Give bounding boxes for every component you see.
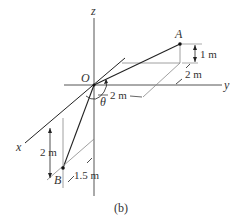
y-dim-arrow-right xyxy=(130,96,142,97)
point-origin xyxy=(93,84,96,87)
a-height-label: 1 m xyxy=(200,48,217,60)
arrow-head xyxy=(193,45,197,50)
b-height-label: 2 m xyxy=(40,146,57,158)
point-a xyxy=(178,42,182,46)
arrow-head xyxy=(193,57,197,62)
point-b xyxy=(61,166,65,170)
a-construction-diagonal xyxy=(143,63,180,97)
a-along-y-label: 2 m xyxy=(110,89,127,101)
vector-oa xyxy=(94,44,180,85)
figure-caption: (b) xyxy=(114,201,128,215)
arrow-head xyxy=(48,173,52,178)
point-a-label: A xyxy=(174,27,183,41)
point-b-label: B xyxy=(54,173,62,187)
a-dim-depth-leader xyxy=(176,79,182,84)
z-axis-label: z xyxy=(90,4,96,18)
vector-diagram: z y x O A B θ 1 m 2 m 2 m 2 m 1.5 m (b) xyxy=(0,0,238,218)
theta-label: θ xyxy=(100,95,106,109)
a-depth-label: 2 m xyxy=(185,68,202,80)
x-axis-label: x xyxy=(15,140,22,154)
b-dim-offset-leader-top xyxy=(87,158,92,163)
b-offset-label: 1.5 m xyxy=(74,169,100,181)
origin-label: O xyxy=(81,71,90,85)
arrow-head xyxy=(48,128,52,133)
y-axis-label: y xyxy=(223,78,230,92)
